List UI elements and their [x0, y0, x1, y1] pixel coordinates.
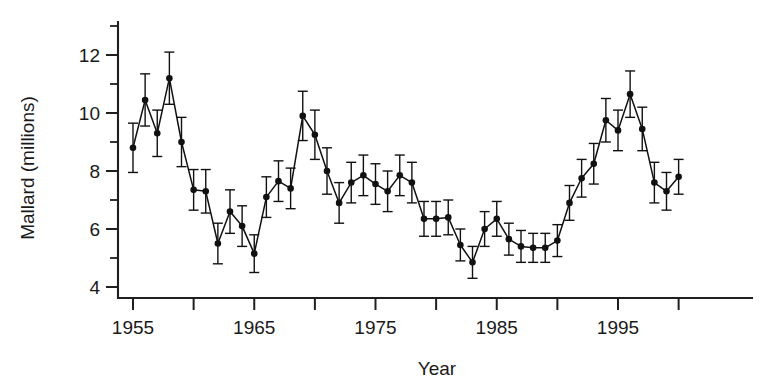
data-point — [421, 216, 428, 223]
x-axis-title: Year — [418, 358, 457, 379]
data-point — [627, 91, 634, 98]
data-point — [251, 250, 258, 257]
data-point — [227, 208, 234, 215]
data-point — [566, 200, 573, 207]
data-point — [215, 240, 222, 247]
data-point — [603, 117, 610, 124]
data-point — [396, 172, 403, 179]
data-point — [336, 200, 343, 207]
data-point — [324, 168, 331, 175]
data-point — [578, 175, 585, 182]
data-point — [384, 188, 391, 195]
data-point — [275, 178, 282, 185]
y-tick-label: 6 — [89, 219, 100, 240]
data-point — [457, 242, 464, 249]
x-tick-label: 1985 — [476, 317, 518, 338]
y-axis: 4681012 — [79, 22, 118, 298]
data-point — [433, 216, 440, 223]
data-point — [178, 139, 185, 146]
y-axis-title: Mallard (millions) — [17, 96, 38, 240]
data-point — [663, 188, 670, 195]
y-tick-label: 4 — [89, 277, 100, 298]
data-point — [409, 179, 416, 186]
y-tick-label: 8 — [89, 161, 100, 182]
data-point — [590, 160, 597, 167]
chart-figure: 4681012 19551965197519851995 Mallard (mi… — [0, 0, 770, 389]
data-point — [130, 145, 137, 152]
data-point — [469, 259, 476, 266]
data-point — [445, 214, 452, 221]
data-point — [190, 187, 197, 194]
x-tick-label: 1975 — [354, 317, 396, 338]
data-point — [518, 243, 525, 250]
data-point — [360, 172, 367, 179]
data-point — [530, 245, 537, 252]
x-tick-label: 1965 — [233, 317, 275, 338]
data-point — [154, 130, 161, 137]
data-point — [312, 131, 319, 138]
data-point — [554, 237, 561, 244]
data-point — [166, 75, 173, 82]
data-point — [142, 97, 149, 104]
x-axis: 19551965197519851995 — [112, 298, 752, 338]
data-series-mallard — [128, 52, 684, 278]
data-point — [506, 236, 513, 243]
data-point — [348, 179, 355, 186]
data-point — [299, 113, 306, 120]
y-tick-label: 12 — [79, 45, 100, 66]
data-point — [615, 127, 622, 134]
data-point — [372, 181, 379, 188]
x-tick-label: 1955 — [112, 317, 154, 338]
data-point — [639, 126, 646, 133]
x-tick-label: 1995 — [597, 317, 639, 338]
data-point — [493, 216, 500, 223]
data-point — [202, 188, 209, 195]
series-polyline — [133, 78, 679, 262]
data-point — [287, 185, 294, 192]
data-point — [651, 179, 658, 186]
data-point — [481, 226, 488, 233]
data-point — [263, 194, 270, 201]
data-point — [542, 245, 549, 252]
mallard-population-line-chart: 4681012 19551965197519851995 Mallard (mi… — [0, 0, 770, 389]
data-point — [239, 223, 246, 230]
y-tick-label: 10 — [79, 103, 100, 124]
data-point — [675, 174, 682, 181]
